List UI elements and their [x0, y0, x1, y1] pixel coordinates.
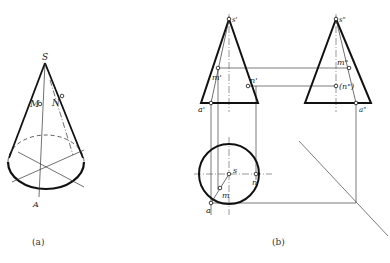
label-s-double-prime: s"	[339, 16, 346, 24]
side-view: s" m" (n") a"	[305, 16, 371, 114]
label-s: S	[42, 52, 48, 62]
point-s-double-prime	[334, 17, 338, 21]
generatrix-sa	[39, 63, 45, 197]
label-m: M	[29, 99, 40, 109]
cone-left-outline	[9, 63, 45, 158]
label-a-prime: a'	[198, 105, 205, 114]
label-n-double-prime: (n")	[339, 82, 354, 91]
base-centerline-2	[18, 152, 84, 187]
label-n-top: n	[252, 178, 257, 187]
centerlines	[194, 14, 336, 215]
point-m-top	[218, 186, 222, 190]
point-a-double-prime	[354, 101, 358, 105]
front-generatrix-sa	[211, 19, 229, 103]
front-view: s' m' n' a'	[198, 16, 258, 114]
cone-projection-diagram: S M N A (a) s' m' n'	[0, 0, 390, 263]
generatrix-through-n	[50, 80, 73, 155]
point-m-prime	[216, 66, 220, 70]
point-a-top	[209, 201, 213, 205]
front-view-triangle	[201, 19, 258, 103]
caption-a: (a)	[32, 237, 44, 247]
label-m-prime: m'	[212, 73, 222, 82]
base-ellipse-hidden	[8, 135, 84, 162]
label-s-top: s	[233, 166, 237, 175]
cone-right-outline	[45, 63, 83, 158]
point-n	[60, 94, 64, 98]
label-a-top: a	[206, 206, 211, 215]
figure-a-pictorial-cone: S M N A	[8, 52, 84, 209]
caption-b: (b)	[272, 237, 285, 247]
label-n-prime: n'	[250, 76, 257, 85]
label-a-double-prime: a"	[359, 106, 366, 114]
label-m-top: m	[222, 191, 230, 200]
label-n: N	[51, 98, 61, 108]
label-a: A	[32, 200, 39, 209]
label-s-prime: s'	[232, 16, 238, 24]
label-m-double-prime: m"	[337, 58, 348, 67]
point-s-prime	[227, 17, 231, 21]
projection-lines	[211, 68, 388, 236]
point-n-double-prime	[334, 84, 338, 88]
base-ellipse-visible	[8, 162, 84, 189]
point-a-prime	[209, 101, 213, 105]
point-s-top	[227, 172, 231, 176]
point-n-top	[254, 172, 258, 176]
